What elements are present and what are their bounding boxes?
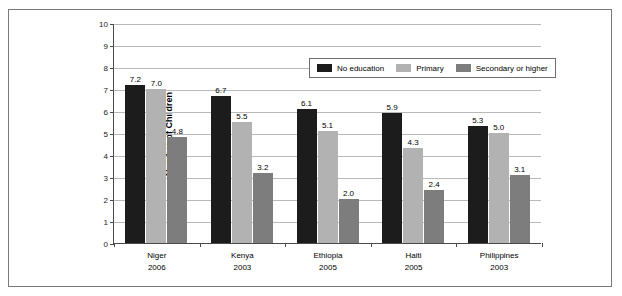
x-category-label: Philippines2003 — [454, 250, 544, 273]
bar[interactable]: 7.0 — [146, 89, 166, 243]
bar[interactable]: 2.0 — [339, 199, 359, 243]
plot-area: 1098765432107.27.04.8Niger20066.75.53.2K… — [113, 24, 541, 244]
y-tick-mark — [110, 178, 114, 179]
legend-label: No education — [337, 64, 384, 73]
x-tick-mark — [285, 243, 286, 247]
y-tick-label: 8 — [104, 64, 108, 73]
y-tick-label: 10 — [99, 20, 108, 29]
x-category-name: Philippines — [454, 250, 544, 262]
legend-swatch-icon — [396, 64, 411, 72]
bar-value-label: 5.5 — [236, 112, 247, 121]
bar[interactable]: 6.7 — [211, 96, 231, 243]
y-tick-label: 0 — [104, 240, 108, 249]
chart-figure: Number of Children 1098765432107.27.04.8… — [8, 9, 612, 287]
y-tick-mark — [110, 90, 114, 91]
bar[interactable]: 5.1 — [318, 131, 338, 243]
x-category-name: Kenya — [197, 250, 287, 262]
chart-legend: No educationPrimarySecondary or higher — [309, 58, 556, 78]
bar-value-label: 3.1 — [514, 165, 525, 174]
bar-value-label: 3.2 — [257, 163, 268, 172]
bar-group: 6.15.12.0 — [297, 24, 360, 243]
legend-swatch-icon — [456, 64, 471, 72]
x-category-name: Haiti — [369, 250, 459, 262]
y-tick-mark — [110, 46, 114, 47]
x-tick-mark — [456, 243, 457, 247]
bar[interactable]: 4.8 — [167, 137, 187, 243]
bar[interactable]: 5.3 — [468, 126, 488, 243]
x-category-label: Ethiopia2005 — [283, 250, 373, 273]
legend-label: Secondary or higher — [476, 64, 548, 73]
x-category-name: Niger — [112, 250, 202, 262]
bar[interactable]: 5.5 — [232, 122, 252, 243]
y-tick-mark — [110, 68, 114, 69]
bar-group: 7.27.04.8 — [125, 24, 188, 243]
bar[interactable]: 5.0 — [489, 133, 509, 243]
x-category-year: 2003 — [197, 262, 287, 274]
bar-value-label: 7.0 — [151, 79, 162, 88]
x-category-label: Haiti2005 — [369, 250, 459, 273]
y-tick-label: 7 — [104, 86, 108, 95]
bar-value-label: 5.0 — [493, 123, 504, 132]
bar-group: 6.75.53.2 — [211, 24, 274, 243]
bar-value-label: 6.7 — [215, 86, 226, 95]
x-tick-mark — [200, 243, 201, 247]
y-tick-label: 2 — [104, 196, 108, 205]
x-category-label: Niger2006 — [112, 250, 202, 273]
bar[interactable]: 5.9 — [382, 113, 402, 243]
legend-item[interactable]: No education — [317, 64, 384, 73]
bar-value-label: 7.2 — [130, 75, 141, 84]
y-tick-mark — [110, 24, 114, 25]
bar[interactable]: 4.3 — [403, 148, 423, 243]
y-tick-mark — [110, 200, 114, 201]
x-tick-mark — [542, 243, 543, 247]
y-tick-label: 3 — [104, 174, 108, 183]
bar-value-label: 5.1 — [322, 121, 333, 130]
y-tick-mark — [110, 222, 114, 223]
x-category-year: 2006 — [112, 262, 202, 274]
bar[interactable]: 2.4 — [424, 190, 444, 243]
y-tick-label: 5 — [104, 130, 108, 139]
x-category-year: 2003 — [454, 262, 544, 274]
bar-group: 5.94.32.4 — [382, 24, 445, 243]
x-category-year: 2005 — [283, 262, 373, 274]
bar-value-label: 4.8 — [172, 127, 183, 136]
bar[interactable]: 3.1 — [510, 175, 530, 243]
y-tick-label: 6 — [104, 108, 108, 117]
legend-item[interactable]: Primary — [396, 64, 444, 73]
y-tick-label: 4 — [104, 152, 108, 161]
bar-value-label: 2.4 — [429, 180, 440, 189]
y-tick-mark — [110, 156, 114, 157]
y-tick-mark — [110, 112, 114, 113]
x-category-year: 2005 — [369, 262, 459, 274]
x-tick-mark — [114, 243, 115, 247]
y-tick-mark — [110, 134, 114, 135]
bar[interactable]: 3.2 — [253, 173, 273, 243]
y-tick-label: 9 — [104, 42, 108, 51]
x-category-name: Ethiopia — [283, 250, 373, 262]
legend-label: Primary — [416, 64, 444, 73]
bar-value-label: 4.3 — [408, 138, 419, 147]
x-tick-mark — [371, 243, 372, 247]
bar-value-label: 6.1 — [301, 99, 312, 108]
bar-value-label: 2.0 — [343, 189, 354, 198]
legend-item[interactable]: Secondary or higher — [456, 64, 548, 73]
bar[interactable]: 7.2 — [125, 85, 145, 243]
x-category-label: Kenya2003 — [197, 250, 287, 273]
legend-swatch-icon — [317, 64, 332, 72]
bar-group: 5.35.03.1 — [468, 24, 531, 243]
bar-value-label: 5.3 — [472, 116, 483, 125]
bar[interactable]: 6.1 — [297, 109, 317, 243]
bar-value-label: 5.9 — [387, 103, 398, 112]
y-tick-label: 1 — [104, 218, 108, 227]
